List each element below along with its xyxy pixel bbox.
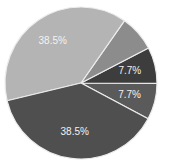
slice-label: 38.5% [39, 35, 67, 46]
slice-label: 7.7% [118, 65, 141, 76]
slice-label: 38.5% [61, 126, 89, 137]
slice-label: 7.7% [118, 89, 141, 100]
pie-chart: 7.7%7.7%38.5%38.5% [0, 0, 170, 164]
